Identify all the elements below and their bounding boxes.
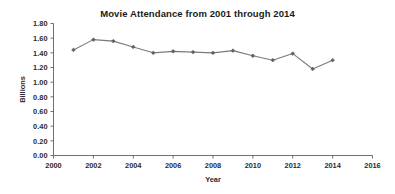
y-tick-label: 0.60	[33, 107, 47, 116]
x-tick-label: 2006	[165, 161, 181, 170]
y-tick-label: 1.60	[33, 34, 47, 43]
x-axis-title: Year	[205, 175, 221, 184]
x-tick-label: 2004	[125, 161, 142, 170]
data-point-marker: 2010: 1.36	[251, 54, 255, 58]
y-tick-label: 0.80	[33, 93, 47, 102]
data-point-marker: 2014: 1.3	[331, 58, 335, 62]
y-tick-label: 1.20	[33, 63, 47, 72]
data-series-movie-attendance: 2001: 1.442002: 1.582003: 1.562004: 1.48…	[72, 38, 335, 71]
y-tick-label: 1.40	[33, 49, 47, 58]
y-axis: 0.000.200.400.600.801.001.201.401.601.80	[33, 19, 53, 160]
data-point-marker: 2006: 1.42	[171, 49, 175, 53]
x-tick-label: 2014	[324, 161, 341, 170]
data-point-marker: 2005: 1.4	[151, 51, 155, 55]
data-point-marker: 2001: 1.44	[72, 48, 76, 52]
x-tick-label: 2002	[85, 161, 101, 170]
y-tick-label: 1.80	[33, 19, 47, 28]
x-axis: 200020022004200620082010201220142016	[45, 156, 380, 170]
x-tick-label: 2008	[205, 161, 221, 170]
line-chart-plot: 0.000.200.400.600.801.001.201.401.601.80…	[0, 0, 395, 194]
data-point-marker: 2008: 1.4	[211, 51, 215, 55]
y-tick-label: 0.20	[33, 137, 47, 146]
y-tick-label: 0.00	[33, 151, 47, 160]
x-tick-label: 2010	[245, 161, 261, 170]
x-tick-label: 2012	[285, 161, 301, 170]
x-tick-label: 2000	[45, 161, 61, 170]
data-point-marker: 2009: 1.43	[231, 49, 235, 53]
y-axis-title: Billions	[18, 76, 27, 103]
data-point-marker: 2007: 1.41	[191, 50, 195, 54]
chart-container: Movie Attendance from 2001 through 2014 …	[0, 0, 395, 194]
data-point-marker: 2003: 1.56	[111, 39, 115, 43]
y-tick-label: 1.00	[33, 78, 47, 87]
x-tick-label: 2016	[364, 161, 380, 170]
data-point-marker: 2004: 1.48	[131, 45, 135, 49]
y-tick-label: 0.40	[33, 122, 47, 131]
data-point-marker: 2002: 1.58	[91, 38, 95, 42]
data-point-marker: 2011: 1.3	[271, 58, 275, 62]
